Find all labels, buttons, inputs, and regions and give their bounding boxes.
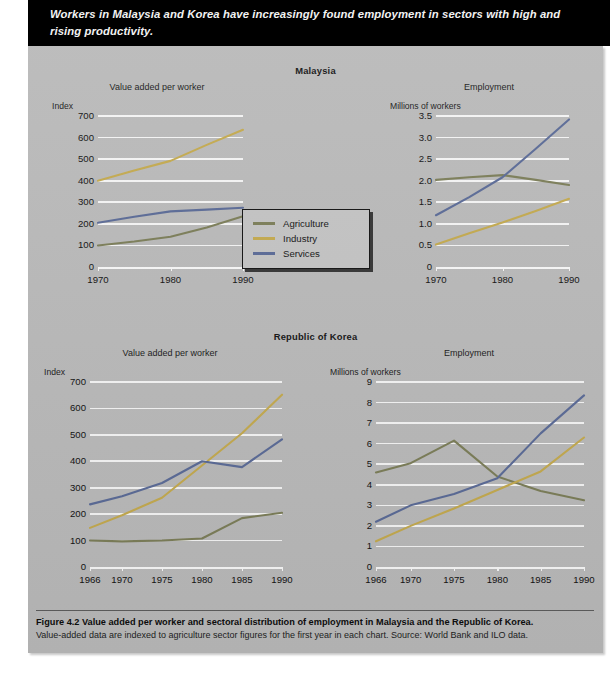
y-tick-label: 1.0 xyxy=(394,218,432,229)
y-tick-label: 300 xyxy=(48,482,86,493)
plot-area xyxy=(436,116,569,267)
series-line-agriculture xyxy=(98,216,243,245)
series-line-industry xyxy=(90,395,282,528)
chart-title: Employment xyxy=(354,348,584,358)
y-tick-label: 600 xyxy=(48,402,86,413)
y-tick-label: 0 xyxy=(334,561,372,572)
y-tick-label: 200 xyxy=(48,508,86,519)
y-tick-label: 400 xyxy=(48,455,86,466)
series-line-industry xyxy=(98,130,243,181)
series-line-services xyxy=(376,395,584,521)
chart-title: Employment xyxy=(404,82,574,92)
x-tick-label: 1990 xyxy=(562,574,606,585)
x-tick-label: 1975 xyxy=(140,574,184,585)
series-canvas xyxy=(436,116,571,269)
y-tick-label: 9 xyxy=(334,376,372,387)
headline-text: Workers in Malaysia and Korea have incre… xyxy=(50,6,580,39)
chart-korea-employment: EmploymentMillions of workers01234567891… xyxy=(328,354,610,597)
x-tick-label: 1970 xyxy=(76,274,120,285)
caption-divider xyxy=(36,610,594,611)
y-tick-label: 3.0 xyxy=(394,132,432,143)
y-tick-label: 2.0 xyxy=(394,175,432,186)
y-tick-label: 600 xyxy=(56,132,94,143)
legend-swatch-icon xyxy=(253,237,275,240)
x-tick-label: 1990 xyxy=(221,274,265,285)
y-tick-label: 3.5 xyxy=(394,110,432,121)
x-tick-label: 1970 xyxy=(389,574,433,585)
x-tick-label: 1990 xyxy=(260,574,304,585)
x-tick-label: 1980 xyxy=(481,274,525,285)
x-tick-label: 1975 xyxy=(432,574,476,585)
y-tick-label: 1 xyxy=(334,540,372,551)
legend-item-label: Industry xyxy=(283,233,317,244)
y-tick-label: 4 xyxy=(334,479,372,490)
chart-title: Value added per worker xyxy=(60,348,280,358)
y-tick-label: 2 xyxy=(334,520,372,531)
y-tick-label: 500 xyxy=(48,429,86,440)
plot-area xyxy=(98,116,243,267)
plot-area xyxy=(376,382,584,567)
legend-item-industry: Industry xyxy=(253,233,317,244)
country-title-malaysia: Malaysia xyxy=(28,65,603,76)
y-tick-label: 100 xyxy=(48,535,86,546)
y-tick-label: 200 xyxy=(56,218,94,229)
caption-body: Value-added data are indexed to agricult… xyxy=(36,629,592,641)
legend-swatch-icon xyxy=(253,222,275,225)
y-tick-label: 7 xyxy=(334,417,372,428)
caption-title: Figure 4.2 Value added per worker and se… xyxy=(36,616,592,629)
legend-item-agriculture: Agriculture xyxy=(253,218,329,229)
country-title-korea: Republic of Korea xyxy=(28,331,603,342)
series-line-services xyxy=(436,119,569,215)
y-tick-label: 3 xyxy=(334,499,372,510)
legend-swatch-icon xyxy=(253,252,275,255)
y-tick-label: 0 xyxy=(56,261,94,272)
y-tick-label: 0.5 xyxy=(394,239,432,250)
y-tick-label: 2.5 xyxy=(394,153,432,164)
chart-korea-value-added: Value added per workerIndex0100200300400… xyxy=(32,354,312,597)
x-tick-label: 1970 xyxy=(100,574,144,585)
x-tick-label: 1980 xyxy=(475,574,519,585)
y-tick-label: 700 xyxy=(48,376,86,387)
chart-legend: AgricultureIndustryServices xyxy=(242,209,370,269)
y-tick-label: 5 xyxy=(334,458,372,469)
figure-caption: Figure 4.2 Value added per worker and se… xyxy=(36,616,592,642)
y-tick-label: 700 xyxy=(56,110,94,121)
y-tick-label: 400 xyxy=(56,175,94,186)
y-tick-label: 8 xyxy=(334,397,372,408)
x-tick-label: 1970 xyxy=(414,274,458,285)
series-line-agriculture xyxy=(376,441,584,501)
series-line-services xyxy=(98,208,243,223)
plot-area xyxy=(90,382,282,567)
y-tick-label: 0 xyxy=(48,561,86,572)
figure-panel: Malaysia Republic of Korea Value added p… xyxy=(28,46,603,653)
x-tick-label: 1985 xyxy=(220,574,264,585)
x-tick-label: 1985 xyxy=(519,574,563,585)
series-line-industry xyxy=(436,199,569,245)
y-tick-label: 500 xyxy=(56,153,94,164)
y-tick-label: 0 xyxy=(394,261,432,272)
legend-item-label: Services xyxy=(283,248,320,259)
series-line-industry xyxy=(376,438,584,542)
chart-title: Value added per worker xyxy=(62,82,252,92)
y-tick-label: 100 xyxy=(56,239,94,250)
series-canvas xyxy=(376,382,586,569)
y-tick-label: 300 xyxy=(56,196,94,207)
x-tick-label: 1980 xyxy=(180,574,224,585)
x-tick-label: 1980 xyxy=(149,274,193,285)
figure-page: Workers in Malaysia and Korea have incre… xyxy=(0,0,610,695)
legend-item-services: Services xyxy=(253,248,320,259)
y-tick-label: 6 xyxy=(334,438,372,449)
chart-malaysia-value-added: Value added per workerIndex0100200300400… xyxy=(40,88,273,297)
series-canvas xyxy=(98,116,245,269)
series-line-services xyxy=(90,439,282,504)
y-tick-label: 1.5 xyxy=(394,196,432,207)
series-canvas xyxy=(90,382,284,569)
headline-banner: Workers in Malaysia and Korea have incre… xyxy=(28,0,610,46)
legend-item-label: Agriculture xyxy=(283,218,329,229)
chart-malaysia-employment: EmploymentMillions of workers00.51.01.52… xyxy=(386,88,599,297)
x-tick-label: 1990 xyxy=(547,274,591,285)
